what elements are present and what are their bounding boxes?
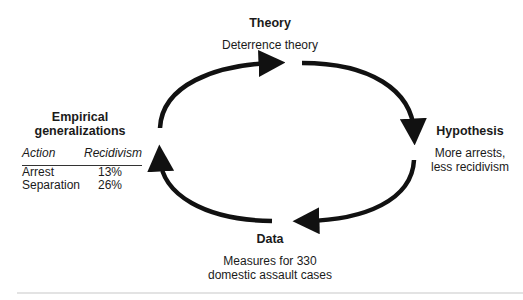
row-recidivism: 13% bbox=[92, 166, 122, 179]
data-line2: domestic assault cases bbox=[200, 268, 340, 282]
column-header-recidivism: Recidivism bbox=[84, 146, 142, 160]
table-header: Action Recidivism bbox=[22, 146, 142, 166]
hypothesis-title: Hypothesis bbox=[425, 124, 515, 138]
arrow-to-empirical bbox=[160, 158, 272, 221]
theory-text: Deterrence theory bbox=[200, 38, 340, 52]
empirical-title-line1: Empirical bbox=[20, 110, 140, 125]
empirical-title-line2: generalizations bbox=[20, 124, 140, 139]
arrow-to-hypothesis bbox=[302, 63, 414, 132]
arrow-to-theory bbox=[160, 63, 272, 128]
table-row: Arrest 13% bbox=[22, 166, 142, 179]
empirical-table: Action Recidivism Arrest 13% Separation … bbox=[22, 146, 142, 191]
arrow-to-data bbox=[306, 160, 414, 221]
row-recidivism: 26% bbox=[92, 179, 122, 192]
theory-title: Theory bbox=[230, 16, 310, 30]
row-action: Arrest bbox=[22, 166, 54, 179]
column-header-action: Action bbox=[22, 146, 55, 160]
row-action: Separation bbox=[22, 179, 80, 192]
hypothesis-line1: More arrests, bbox=[420, 146, 520, 160]
table-row: Separation 26% bbox=[22, 179, 142, 192]
hypothesis-line2: less recidivism bbox=[420, 160, 520, 174]
footer-divider bbox=[17, 292, 523, 294]
data-title: Data bbox=[240, 232, 300, 246]
data-line1: Measures for 330 bbox=[200, 254, 340, 268]
